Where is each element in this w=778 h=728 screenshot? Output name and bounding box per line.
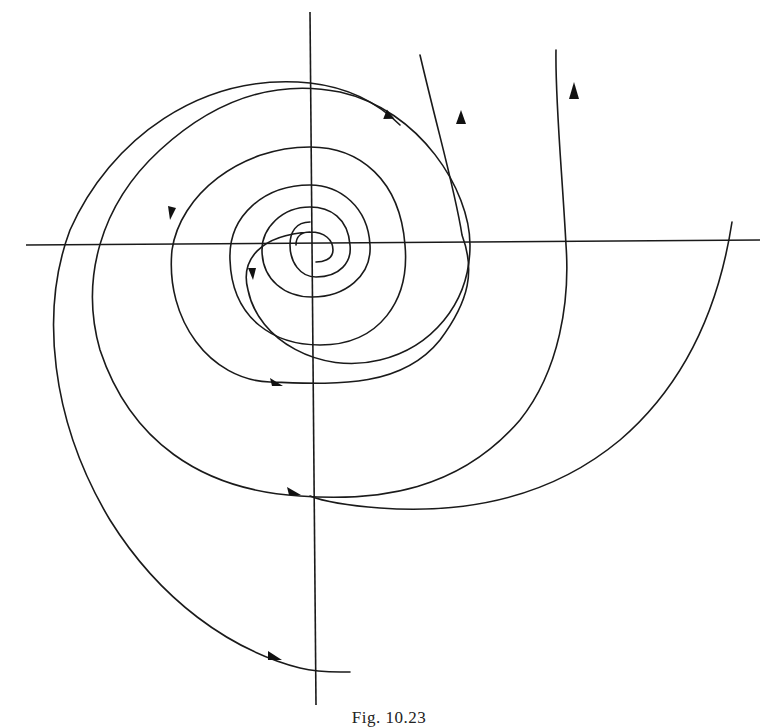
trajectory-spiral-a [171, 55, 468, 383]
trajectory-right-arc [310, 222, 732, 509]
figure-caption: Fig. 10.23 [0, 708, 778, 728]
arrow-icon [287, 487, 301, 495]
x-axis [26, 240, 760, 245]
arrow-icon [248, 268, 256, 280]
arrow-icon [268, 651, 282, 660]
arrow-icon [569, 82, 579, 99]
arrow-icon [456, 110, 466, 124]
arrow-icon [168, 206, 176, 220]
trajectory-spiral-b [93, 50, 567, 497]
trajectory-outer-arc [54, 82, 400, 672]
